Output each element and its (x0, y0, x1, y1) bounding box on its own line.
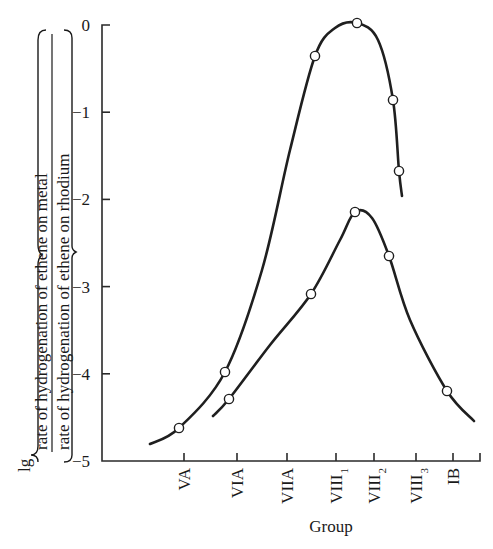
y-axis-title: lg rate of hydrogenation of ethene on me… (15, 30, 76, 472)
data-point (394, 166, 403, 175)
x-tick-label: VA (175, 467, 194, 490)
axes (102, 25, 480, 461)
y-tick-label: −2 (72, 190, 90, 209)
y-tick-label: −4 (72, 365, 91, 384)
y-tick-label: −5 (72, 452, 90, 471)
series-curve (150, 22, 402, 444)
data-point (388, 95, 397, 104)
y-tick-label: −3 (72, 278, 90, 297)
data-point (442, 386, 451, 395)
y-axis-numerator: rate of hydrogenation of ethene on metal (32, 173, 51, 450)
y-axis-line (102, 25, 480, 461)
y-tick-label: −1 (72, 103, 90, 122)
data-point (350, 207, 359, 216)
data-points (174, 18, 451, 432)
x-tick-label: VIIA (278, 467, 297, 504)
data-point (224, 394, 233, 403)
data-point (310, 51, 319, 60)
x-tick-label: VIII3 (407, 468, 430, 504)
data-point (384, 251, 393, 260)
data-point (352, 18, 361, 27)
data-point (220, 367, 229, 376)
data-point (306, 289, 315, 298)
y-tick-label: 0 (82, 16, 91, 35)
x-axis-title: Group (309, 517, 352, 536)
data-point (174, 423, 183, 432)
x-tick-label: IB (444, 468, 463, 485)
curves (150, 22, 474, 444)
y-ticks: 0−1−2−3−4−5 (72, 16, 110, 471)
x-tick-label: VIA (228, 467, 247, 498)
x-tick-label: VIII2 (365, 468, 388, 504)
y-axis-prefix: lg (15, 458, 34, 472)
x-tick-label: VIII1 (327, 468, 350, 504)
chart: lg rate of hydrogenation of ethene on me… (0, 0, 493, 549)
series-curve (213, 210, 474, 421)
y-axis-denominator: rate of hydrogenation of ethene on rhodi… (54, 154, 73, 450)
